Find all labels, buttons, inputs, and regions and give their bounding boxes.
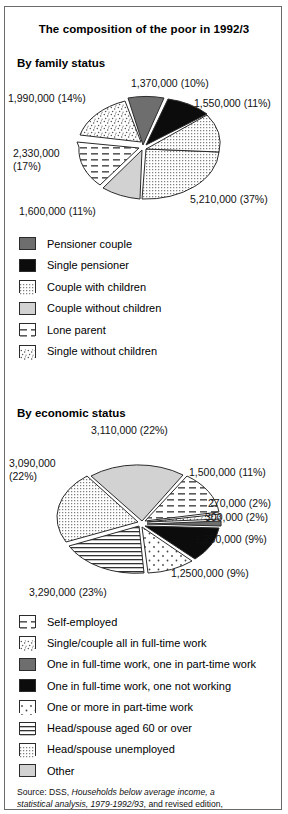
callout-270000: 270,000 (2%) bbox=[208, 497, 271, 510]
source-title-part2: statistical analysis, 1979-1992/93 bbox=[17, 799, 144, 809]
legend-label: Lone parent bbox=[47, 324, 106, 336]
swatch-light-gray-icon bbox=[19, 302, 36, 315]
legend-label: Self-employed bbox=[47, 616, 117, 628]
legend-label: Single/couple all in full-time work bbox=[47, 637, 207, 649]
callout-2330000: 2,330,000 (17%) bbox=[13, 147, 79, 172]
legend-item-couple-without-children[interactable]: Couple without children bbox=[19, 298, 161, 320]
callout-12500000: 1,2500,000 (9%) bbox=[171, 567, 249, 580]
legend-item-single-couple-fulltime[interactable]: Single/couple all in full-time work bbox=[19, 632, 256, 653]
legend-item-lone-parent[interactable]: Lone parent bbox=[19, 319, 161, 341]
swatch-fine-dots-icon bbox=[19, 743, 36, 756]
legend-label: Couple with children bbox=[47, 281, 146, 293]
legend-item-one-ft-one-pt[interactable]: One in full-time work, one in part-time … bbox=[19, 654, 256, 675]
callout-1370000: 1,370,000 (10%) bbox=[131, 77, 209, 90]
figure-panel: The composition of the poor in 1992/3 By… bbox=[4, 6, 282, 810]
legend-item-head-spouse-unemployed[interactable]: Head/spouse unemployed bbox=[19, 739, 256, 760]
figure-title: The composition of the poor in 1992/3 bbox=[5, 23, 282, 35]
callout-3110000: 3,110,000 (22%) bbox=[91, 424, 168, 437]
swatch-dark-gray-icon bbox=[19, 658, 36, 671]
legend-label: Single pensioner bbox=[47, 259, 129, 271]
legend-item-pensioner-couple[interactable]: Pensioner couple bbox=[19, 233, 161, 255]
swatch-speckle-icon bbox=[19, 636, 36, 649]
legend-label: Head/spouse unemployed bbox=[47, 743, 175, 755]
legend-economic-status: Self-employed Single/couple all in full-… bbox=[19, 611, 256, 781]
legend-label: Couple without children bbox=[47, 302, 161, 314]
callout-1500000: 1,500,000 (11%) bbox=[189, 466, 266, 479]
callout-3090000: 3,090,000 (22%) bbox=[9, 457, 79, 482]
legend-item-couple-with-children[interactable]: Couple with children bbox=[19, 276, 161, 298]
swatch-dashed-lines-icon bbox=[19, 615, 36, 628]
callout-300000: 300,000 (2%) bbox=[205, 511, 268, 524]
source-suffix: , and revised edition, bbox=[144, 799, 223, 809]
callout-1250000: 1,250,000 (9%) bbox=[195, 533, 267, 546]
legend-label: One or more in part-time work bbox=[47, 701, 193, 713]
legend-item-one-or-more-parttime[interactable]: One or more in part-time work bbox=[19, 696, 256, 717]
swatch-light-gray-icon bbox=[19, 764, 36, 777]
callout-3290000: 3,290,000 (23%) bbox=[29, 586, 107, 599]
swatch-fine-dots-icon bbox=[19, 280, 36, 293]
swatch-dark-gray-icon bbox=[19, 237, 36, 250]
legend-item-self-employed[interactable]: Self-employed bbox=[19, 611, 256, 632]
legend-item-single-pensioner[interactable]: Single pensioner bbox=[19, 255, 161, 277]
legend-label: Single without children bbox=[47, 345, 157, 357]
swatch-speckle-icon bbox=[19, 345, 36, 358]
callout-5210000: 5,210,000 (37%) bbox=[190, 193, 268, 206]
swatch-black-icon bbox=[19, 679, 36, 692]
callout-1550000: 1,550,000 (11%) bbox=[194, 97, 271, 110]
legend-item-head-spouse-aged-60[interactable]: Head/spouse aged 60 or over bbox=[19, 717, 256, 738]
legend-item-single-without-children[interactable]: Single without children bbox=[19, 341, 161, 363]
source-title-part1: Households below average income, a bbox=[71, 787, 214, 797]
pie1-slice-couple-with-children bbox=[142, 149, 219, 199]
legend-label: Head/spouse aged 60 or over bbox=[47, 722, 192, 734]
section-heading-economic-status: By economic status bbox=[17, 407, 126, 419]
legend-label: One in full-time work, one in part-time … bbox=[47, 658, 256, 670]
legend-label: Pensioner couple bbox=[47, 238, 132, 250]
legend-family-status: Pensioner couple Single pensioner Couple… bbox=[19, 233, 161, 362]
swatch-horizontal-lines-icon bbox=[19, 722, 36, 735]
legend-item-one-ft-one-not-working[interactable]: One in full-time work, one not working bbox=[19, 675, 256, 696]
swatch-sparse-dots-icon bbox=[19, 700, 36, 713]
callout-1990000: 1,990,000 (14%) bbox=[8, 92, 86, 105]
legend-label: One in full-time work, one not working bbox=[47, 680, 231, 692]
swatch-black-icon bbox=[19, 259, 36, 272]
source-note: Source: DSS, Households below average in… bbox=[17, 786, 275, 810]
swatch-dashed-lines-icon bbox=[19, 323, 36, 336]
callout-1600000: 1,600,000 (11%) bbox=[19, 205, 96, 218]
legend-label: Other bbox=[47, 765, 75, 777]
section-heading-family-status: By family status bbox=[17, 57, 105, 69]
source-prefix: Source: DSS, bbox=[17, 787, 71, 797]
legend-item-other[interactable]: Other bbox=[19, 760, 256, 781]
